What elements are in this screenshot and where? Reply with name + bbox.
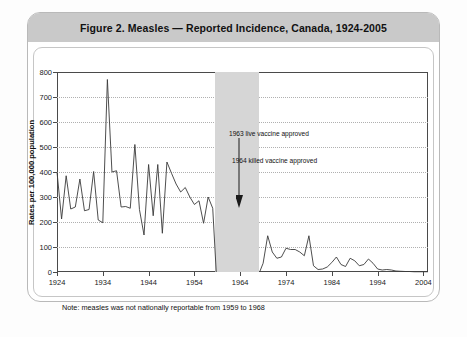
y-axis-tick-mark xyxy=(53,147,57,148)
y-axis-tick-mark xyxy=(53,247,57,248)
y-axis-tick-mark xyxy=(53,122,57,123)
x-axis-tick-mark xyxy=(423,272,424,276)
y-axis-tick-mark xyxy=(53,172,57,173)
y-axis-tick-mark xyxy=(53,72,57,73)
y-axis-tick-label: 200 xyxy=(26,218,52,227)
y-axis-tick-label: 300 xyxy=(26,193,52,202)
x-axis-tick-label: 2004 xyxy=(415,278,432,287)
annotation-arrow-icon xyxy=(236,138,248,210)
x-axis-tick-mark xyxy=(240,272,241,276)
x-axis-tick-mark xyxy=(103,272,104,276)
x-axis-tick-label: 1924 xyxy=(49,278,66,287)
x-axis-tick-label: 1974 xyxy=(278,278,295,287)
y-axis-tick-mark xyxy=(53,197,57,198)
x-axis-tick-label: 1954 xyxy=(186,278,203,287)
x-axis-tick-mark xyxy=(149,272,150,276)
x-axis-tick-mark xyxy=(194,272,195,276)
y-axis-tick-label: 500 xyxy=(26,143,52,152)
y-axis-tick-label: 800 xyxy=(26,68,52,77)
series-line xyxy=(260,236,428,272)
x-axis-tick-mark xyxy=(332,272,333,276)
y-axis-tick-label: 600 xyxy=(26,118,52,127)
x-axis-tick-mark xyxy=(57,272,58,276)
x-axis-tick-label: 1984 xyxy=(323,278,340,287)
x-axis-tick-mark xyxy=(378,272,379,276)
x-axis-tick-label: 1944 xyxy=(140,278,157,287)
y-axis-tick-mark xyxy=(53,97,57,98)
annotation-live-vaccine: 1963 live vaccine approved xyxy=(229,130,309,137)
y-axis-tick-label: 0 xyxy=(26,268,52,277)
x-axis-tick-label: 1964 xyxy=(232,278,249,287)
series-line xyxy=(57,80,216,273)
figure-title-bar: Figure 2. Measles — Reported Incidence, … xyxy=(28,13,439,42)
x-axis-tick-label: 1994 xyxy=(369,278,386,287)
y-axis-tick-mark xyxy=(53,222,57,223)
page-title: Figure 2. Measles — Reported Incidence, … xyxy=(80,22,387,34)
y-axis-tick-label: 400 xyxy=(26,168,52,177)
y-axis-tick-label: 100 xyxy=(26,243,52,252)
x-axis-tick-mark xyxy=(286,272,287,276)
figure-note: Note: measles was not nationally reporta… xyxy=(62,303,265,312)
y-axis-tick-label: 700 xyxy=(26,93,52,102)
x-axis-tick-label: 1934 xyxy=(94,278,111,287)
figure-page: Figure 2. Measles — Reported Incidence, … xyxy=(0,0,467,337)
